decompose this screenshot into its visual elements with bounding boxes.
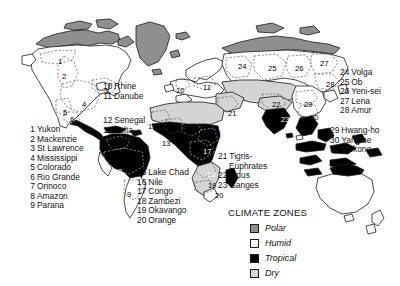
river-name: Indus bbox=[229, 170, 250, 180]
map-basin-number: 25 bbox=[268, 64, 276, 73]
river-name: Senegal bbox=[114, 115, 145, 125]
map-basin-number: 20 bbox=[215, 191, 223, 200]
river-name: Rhine bbox=[114, 81, 136, 91]
river-name: Lake Chad bbox=[148, 167, 189, 177]
river-name: Amur bbox=[351, 105, 371, 115]
legend-label: Polar bbox=[265, 223, 286, 233]
map-basin-number: 2 bbox=[62, 72, 66, 81]
map-basin-number: 8 bbox=[118, 167, 122, 176]
river-number: 31 bbox=[330, 145, 339, 155]
map-basin-number: 17 bbox=[203, 147, 211, 156]
river-number: 14 bbox=[103, 135, 112, 145]
map-basin-number: 7 bbox=[110, 146, 114, 155]
map-basin-number: 16 bbox=[212, 128, 220, 137]
river-name: Parana bbox=[37, 200, 64, 210]
river-name: Niger bbox=[114, 134, 134, 144]
map-basin-number: 5 bbox=[63, 108, 67, 117]
river-list-europe: 10Rhine11Danube bbox=[103, 82, 143, 101]
iceland bbox=[176, 32, 190, 40]
map-basin-number: 19 bbox=[208, 181, 216, 190]
river-name: Hwang-ho bbox=[341, 125, 379, 135]
river-name: Mekong bbox=[341, 144, 371, 154]
river-name: Volta bbox=[114, 125, 133, 135]
world-map-figure: .land{stroke:#1a1a1a;stroke-width:.8;} .… bbox=[0, 0, 400, 286]
legend-swatch-dry bbox=[250, 269, 259, 278]
legend-swatch-humid bbox=[250, 239, 259, 248]
legend-label: Dry bbox=[265, 268, 279, 278]
map-basin-number: 10 bbox=[176, 86, 184, 95]
map-basin-number: 21 bbox=[228, 109, 236, 118]
map-basin-number: 26 bbox=[295, 64, 303, 73]
river-list-item: 23Ganges bbox=[218, 181, 267, 191]
legend-entry: Tropical bbox=[250, 252, 307, 264]
river-number: 21 bbox=[218, 152, 227, 162]
map-basin-number: 14 bbox=[181, 129, 189, 138]
northern-asia-polar bbox=[222, 23, 340, 54]
river-name: Orange bbox=[148, 215, 176, 225]
river-name: Danube bbox=[114, 91, 143, 101]
river-list-item: 28Amur bbox=[340, 106, 381, 116]
river-name: St Lawrence bbox=[37, 143, 84, 153]
river-list-item: 31Mekong bbox=[330, 145, 380, 155]
river-name: Yeni-sei bbox=[351, 86, 381, 96]
legend-swatch-polar bbox=[250, 224, 259, 233]
map-basin-number: 31 bbox=[320, 128, 328, 137]
river-number: 9 bbox=[26, 201, 35, 211]
map-basin-number: 4 bbox=[82, 100, 86, 109]
river-list-east-asia: 29Hwang-ho30Yangtse31Mekong bbox=[330, 126, 380, 155]
river-name: Ob bbox=[351, 77, 362, 87]
asia-dry bbox=[216, 80, 302, 112]
river-list-north-asia: 24Volga25Ob26Yeni-sei27Lena28Amur bbox=[340, 68, 381, 116]
north-america-polar bbox=[36, 19, 134, 48]
river-name: Orinoco bbox=[37, 181, 66, 191]
legend-swatch-tropical bbox=[250, 254, 259, 263]
map-basin-number: 28 bbox=[326, 80, 334, 89]
map-basin-number: 12 bbox=[148, 122, 156, 131]
river-number: 11 bbox=[103, 92, 112, 102]
map-basin-number: 27 bbox=[320, 59, 328, 68]
river-name: Volga bbox=[351, 67, 372, 77]
river-name: Mississippi bbox=[37, 153, 78, 163]
river-name: Okavango bbox=[148, 205, 186, 215]
map-basin-number: 1 bbox=[58, 57, 62, 66]
map-basin-number: 30 bbox=[310, 113, 318, 122]
map-basin-number: 6 bbox=[70, 115, 74, 124]
river-name: Lena bbox=[351, 96, 370, 106]
map-basin-number: 9 bbox=[127, 190, 131, 199]
legend-entry: Polar bbox=[250, 222, 307, 234]
river-name: Congo bbox=[148, 186, 173, 196]
river-name: Tigris- bbox=[229, 151, 252, 161]
legend-label: Humid bbox=[265, 238, 291, 248]
river-list-item: 11Danube bbox=[103, 92, 143, 102]
australia bbox=[316, 164, 384, 234]
river-name: Amazon bbox=[37, 191, 68, 201]
map-basin-number: 11 bbox=[203, 83, 211, 92]
river-number: 23 bbox=[218, 181, 227, 191]
river-number: 20 bbox=[137, 216, 146, 226]
map-basin-number: 24 bbox=[238, 62, 246, 71]
river-name: Ganges bbox=[229, 180, 258, 190]
river-list-item: 14Niger bbox=[103, 135, 145, 145]
river-list-item: 20Orange bbox=[137, 216, 189, 226]
river-name: Mackenzie bbox=[37, 134, 77, 144]
map-basin-number: 13 bbox=[162, 139, 170, 148]
river-name: Zambezi bbox=[148, 196, 180, 206]
river-list-south-asia: 21Tigris-Euphrates22Indus23Ganges bbox=[218, 152, 267, 190]
river-list-item: 9Parana bbox=[26, 201, 84, 211]
river-number: 28 bbox=[340, 106, 349, 116]
river-list-africa-west: 12Senegal13Volta14Niger bbox=[103, 116, 145, 145]
greenland-polar bbox=[136, 22, 180, 75]
river-name: Nile bbox=[148, 177, 162, 187]
river-name: Yangtse bbox=[341, 135, 371, 145]
map-basin-number: 29 bbox=[304, 100, 312, 109]
river-name: Rio Grande bbox=[37, 172, 80, 182]
legend-rows: PolarHumidTropicalDry bbox=[228, 222, 307, 279]
legend-entry: Dry bbox=[250, 267, 307, 279]
europe bbox=[164, 58, 224, 104]
river-list-africa-east: 15Lake Chad16Nile17Congo18Zambezi19Okava… bbox=[137, 168, 189, 225]
map-basin-number: 22 bbox=[272, 100, 280, 109]
river-list-americas: 1Yukon2Mackenzie3St Lawrence4Mississippi… bbox=[26, 125, 84, 211]
map-basin-number: 18 bbox=[207, 170, 215, 179]
map-basin-number: 15 bbox=[196, 129, 204, 138]
legend-entry: Humid bbox=[250, 237, 307, 249]
